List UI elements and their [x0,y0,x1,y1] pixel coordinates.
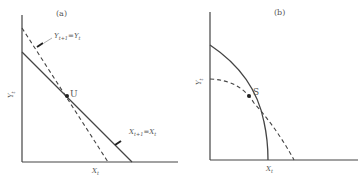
phase-diagram-figure: (a) U Yt+1=Yt Xt+1=Xt Xt Yt (b) S Xt Yt [0,0,362,180]
panel-a: (a) U Yt+1=Yt Xt+1=Xt Xt Yt [7,9,178,176]
panel-a-title: (a) [56,9,67,18]
panel-a-point-u [65,94,69,98]
panel-b-y-axis-label: Yt [195,77,204,85]
panel-a-dashed-curve-label: Yt+1=Yt [54,32,82,41]
panel-a-dashed-arrow-tick [37,43,43,47]
panel-a-solid-curve-label: Xt+1=Xt [128,128,157,137]
panel-a-point-u-label: U [70,89,78,99]
panel-b-solid-curve [210,45,268,160]
panel-a-dashed-line-y-stationary [22,28,108,162]
panel-a-solid-arrow-tick [115,141,121,145]
panel-b-title: (b) [274,8,285,17]
panel-b-point-s [247,94,251,98]
panel-b-point-s-label: S [253,87,259,97]
panel-a-y-axis-label: Yt [7,90,16,98]
panel-a-dashed-leader-line [44,38,52,43]
panel-b: (b) S Xt Yt [195,8,358,174]
panel-b-dashed-curve [210,79,294,160]
panel-a-x-axis-label: Xt [91,167,100,176]
panel-b-x-axis-label: Xt [265,165,274,174]
